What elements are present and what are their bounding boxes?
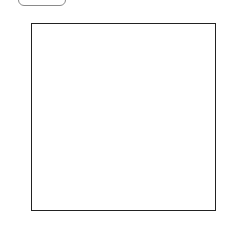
toolbar-button[interactable] <box>18 0 66 6</box>
heatmap-plot <box>31 23 216 211</box>
